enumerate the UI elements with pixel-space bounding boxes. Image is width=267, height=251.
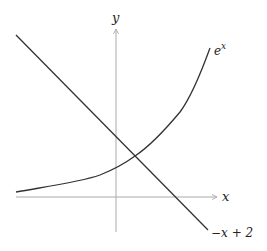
- series-curve-exp-x: [16, 48, 210, 192]
- x-axis-label: x: [222, 189, 230, 204]
- series-line-neg-x-plus-2: [16, 35, 208, 230]
- line-label: −x + 2: [211, 226, 253, 240]
- exp-label-sup: x: [221, 41, 226, 51]
- exp-label: ex: [214, 41, 226, 58]
- y-axis-label: y: [111, 10, 120, 25]
- exp-label-base: e: [214, 44, 221, 58]
- chart: y x ex −x + 2: [0, 0, 267, 251]
